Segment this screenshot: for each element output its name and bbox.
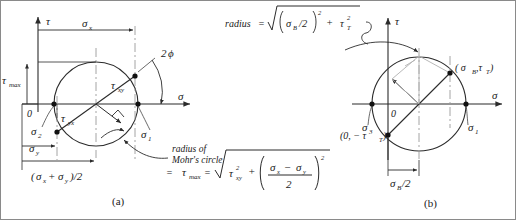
panel-a-sigma2-label: σ <box>31 125 37 137</box>
formula-num-sigmay: σ <box>296 161 302 173</box>
formula-taumax-sub: max <box>189 173 202 181</box>
formula-num-sigmax: σ <box>270 161 276 173</box>
figure-border <box>1 1 516 220</box>
panel-b-point-sigma3 <box>369 101 374 106</box>
panel-b-sigma-axis-label: σ <box>492 89 498 101</box>
panel-a-sigma1-label: σ <box>141 128 147 140</box>
panel-b-point-sigmab-taut <box>447 70 452 75</box>
formula-num-sigmay-sub: y <box>302 168 306 175</box>
panel-b-sigmab-half-label: σ <box>390 177 396 189</box>
panel-a-sigma2-sub: 2 <box>38 132 42 140</box>
panel-a-tauxy-sub: xy <box>117 86 125 94</box>
panel-b-point-top-open: ( σ <box>455 62 467 74</box>
radius-equals: = <box>258 18 265 29</box>
panel-a-center-sigmay: σ <box>58 170 64 182</box>
panel-a-center-sigmax: σ <box>36 170 42 182</box>
formula-eq-1: = <box>166 167 173 178</box>
panel-a-sigmay-label: σ <box>29 142 35 154</box>
formula-num-sigmax-sub: x <box>276 168 280 175</box>
panel-b-sigma3-sub: 3 <box>368 128 373 136</box>
radius-sigma-b-sub: B <box>293 24 297 31</box>
panel-b-sigma1-label: σ <box>468 121 474 133</box>
panel-a-point-sigmax <box>132 73 137 78</box>
caption-a: (a) <box>112 195 125 208</box>
note-line-2: Mohr's circle <box>171 155 223 165</box>
panel-a-point-sigmay <box>54 129 59 134</box>
panel-a-tauyx-sub: yx <box>67 119 75 127</box>
panel-a-angle-label: 2 <box>161 47 167 59</box>
formula-tau-sub: xy <box>235 174 242 181</box>
panel-a-point-sigma2 <box>51 101 56 106</box>
panel-a-origin-label: 0 <box>27 108 32 119</box>
panel-b-point-bottom-end: ) <box>382 130 387 142</box>
panel-a-center-close: )/2 <box>69 170 83 183</box>
panel-a-sigmax-label: σ <box>82 17 88 29</box>
radius-sigma-b: σ <box>286 18 292 29</box>
radius-plus: + <box>326 17 333 28</box>
mohrs-circle-figure: τ σ 0 σ x τ max τ xy τ yx σ 2 σ 1 σ y 2 … <box>0 0 516 220</box>
radius-word: radius <box>225 18 251 29</box>
panel-b-point-top-end: ) <box>489 62 494 74</box>
caption-b: (b) <box>424 197 437 210</box>
panel-a-sigma1-sub: 1 <box>148 135 152 143</box>
radius-tau-t-sub: T <box>347 24 351 31</box>
radius-half: /2 <box>298 18 308 29</box>
panel-b-origin-label: 0 <box>391 108 396 119</box>
panel-a-taumax-sub: max <box>9 81 22 89</box>
panel-a-center-plus: + <box>48 170 55 182</box>
figure-canvas: τ σ 0 σ x τ max τ xy τ yx σ 2 σ 1 σ y 2 … <box>0 0 516 220</box>
panel-a-angle-symbol: ϕ <box>168 47 174 59</box>
panel-a-point-sigma1 <box>135 101 140 106</box>
formula-denominator: 2 <box>286 178 292 190</box>
panel-b-sigma1-sub: 1 <box>475 128 479 136</box>
note-line-1: radius of <box>172 144 207 154</box>
formula-eq-2: = <box>204 167 211 178</box>
formula-plus: + <box>248 165 255 177</box>
panel-a-sigma-axis-label: σ <box>178 90 184 102</box>
formula-num-minus: − <box>284 161 291 173</box>
panel-b-sigmab-half-end: /2 <box>401 177 411 189</box>
panel-b-point-top-mid: ,τ <box>476 62 483 73</box>
panel-b-point-sigma1 <box>463 101 468 106</box>
panel-b-sigma3-label: σ <box>362 121 368 133</box>
